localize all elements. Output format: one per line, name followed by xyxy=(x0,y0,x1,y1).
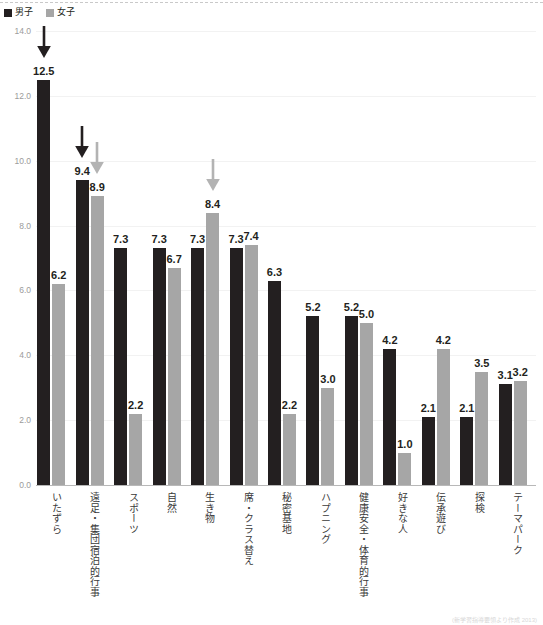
bar-male[interactable] xyxy=(268,281,281,485)
y-axis-tick-label: 12.0 xyxy=(5,92,31,101)
bar-group: 12.56.2 xyxy=(36,31,74,485)
bar-value-label: 6.2 xyxy=(51,270,66,281)
bar-male[interactable] xyxy=(191,248,204,485)
bar-chart: 男子 女子 0.02.04.06.08.010.012.014.0 12.56.… xyxy=(0,0,543,625)
bar-group: 9.48.9 xyxy=(75,31,113,485)
bar-female[interactable] xyxy=(245,245,258,485)
legend-item-male: 男子 xyxy=(4,8,33,17)
bar-male[interactable] xyxy=(460,417,473,485)
x-axis-category-text: いたずら xyxy=(49,492,61,534)
bar-group: 7.36.7 xyxy=(152,31,190,485)
bar-value-label: 5.2 xyxy=(344,302,359,313)
y-axis-tick-label: 10.0 xyxy=(5,156,31,165)
bar-group: 5.25.0 xyxy=(344,31,382,485)
bar-male[interactable] xyxy=(383,349,396,485)
x-axis-category-text: テーマパーク xyxy=(511,492,523,555)
bar-value-label: 2.2 xyxy=(282,400,297,411)
x-axis-category-text: 生き物 xyxy=(203,492,215,524)
x-axis-category-label: 伝承遊び xyxy=(421,492,459,534)
bar-value-label: 6.3 xyxy=(267,267,282,278)
bar-value-label: 8.9 xyxy=(90,182,105,193)
x-axis-category-label: 席・クラス替え xyxy=(229,492,267,566)
legend-label-male: 男子 xyxy=(15,8,33,17)
bar-group: 7.37.4 xyxy=(229,31,267,485)
bar-female[interactable] xyxy=(321,388,334,485)
x-axis-category-label: スポーツ xyxy=(113,492,151,534)
bar-male[interactable] xyxy=(114,248,127,485)
x-axis-category-text: 遠足・集団宿泊的行事 xyxy=(88,492,100,597)
bar-male[interactable] xyxy=(306,316,319,485)
down-arrow-icon xyxy=(36,25,52,63)
bar-male[interactable] xyxy=(230,248,243,485)
bar-group: 7.32.2 xyxy=(113,31,151,485)
y-axis-tick-label: 6.0 xyxy=(5,286,31,295)
bar-value-label: 3.0 xyxy=(320,374,335,385)
bar-value-label: 3.5 xyxy=(474,358,489,369)
down-arrow-icon xyxy=(74,125,90,163)
bar-value-label: 9.4 xyxy=(75,166,90,177)
y-axis-tick-label: 2.0 xyxy=(5,416,31,425)
bar-group: 5.23.0 xyxy=(305,31,343,485)
bar-female[interactable] xyxy=(129,414,142,485)
bar-female[interactable] xyxy=(168,268,181,485)
x-axis-category-text: 伝承遊び xyxy=(434,492,446,534)
bar-male[interactable] xyxy=(37,80,50,485)
bar-value-label: 4.2 xyxy=(436,335,451,346)
bar-group: 6.32.2 xyxy=(267,31,305,485)
x-axis-category-label: 自然 xyxy=(152,492,190,513)
bar-value-label: 5.2 xyxy=(305,302,320,313)
x-axis-category-text: 健康安全・体育的行事 xyxy=(357,492,369,597)
bar-value-label: 5.0 xyxy=(359,309,374,320)
bar-female[interactable] xyxy=(514,381,527,485)
down-arrow-icon xyxy=(205,158,221,196)
y-axis: 0.02.04.06.08.010.012.014.0 xyxy=(0,31,31,485)
bar-female[interactable] xyxy=(437,349,450,485)
gridline xyxy=(36,485,536,486)
bar-female[interactable] xyxy=(475,372,488,486)
bar-value-label: 3.2 xyxy=(513,367,528,378)
down-arrow-icon xyxy=(89,141,105,179)
bar-female[interactable] xyxy=(398,453,411,485)
bar-male[interactable] xyxy=(422,417,435,485)
bar-group: 2.13.5 xyxy=(459,31,497,485)
y-axis-tick-label: 14.0 xyxy=(5,27,31,36)
bar-female[interactable] xyxy=(283,414,296,485)
bar-value-label: 7.3 xyxy=(228,234,243,245)
x-axis-category-text: ハプニング xyxy=(319,492,331,545)
x-axis-category-label: ハプニング xyxy=(305,492,343,545)
bar-value-label: 2.1 xyxy=(459,403,474,414)
x-axis-category-text: 探検 xyxy=(472,492,484,513)
bar-value-label: 6.7 xyxy=(166,254,181,265)
bar-male[interactable] xyxy=(153,248,166,485)
bar-value-label: 7.3 xyxy=(151,234,166,245)
bar-groups: 12.56.29.48.97.32.27.36.77.38.47.37.46.3… xyxy=(36,31,536,485)
x-axis-category-label: 健康安全・体育的行事 xyxy=(344,492,382,597)
bar-male[interactable] xyxy=(76,180,89,485)
bar-value-label: 1.0 xyxy=(397,439,412,450)
source-note: (新学習指導要領より作成 2013) xyxy=(452,617,537,623)
bar-female[interactable] xyxy=(360,323,373,485)
square-marker-icon xyxy=(4,9,12,17)
bar-male[interactable] xyxy=(345,316,358,485)
x-axis-category-label: 探検 xyxy=(459,492,497,513)
bar-value-label: 2.1 xyxy=(421,403,436,414)
bar-value-label: 8.4 xyxy=(205,199,220,210)
x-axis-category-label: テーマパーク xyxy=(498,492,536,555)
y-axis-tick-label: 8.0 xyxy=(5,221,31,230)
x-axis-category-label: 秘密基地 xyxy=(267,492,305,534)
x-axis-category-text: 好きな人 xyxy=(395,492,407,534)
bar-female[interactable] xyxy=(52,284,65,485)
x-axis-category-text: 席・クラス替え xyxy=(242,492,254,566)
bar-value-label: 4.2 xyxy=(382,335,397,346)
square-marker-icon xyxy=(46,9,54,17)
chart-legend: 男子 女子 xyxy=(4,8,75,17)
bar-value-label: 7.3 xyxy=(190,234,205,245)
bar-value-label: 12.5 xyxy=(33,66,54,77)
y-axis-tick-label: 4.0 xyxy=(5,351,31,360)
legend-item-female: 女子 xyxy=(46,8,75,17)
bar-value-label: 2.2 xyxy=(128,400,143,411)
bar-male[interactable] xyxy=(499,384,512,485)
bar-value-label: 7.3 xyxy=(113,234,128,245)
bar-female[interactable] xyxy=(91,196,104,485)
bar-female[interactable] xyxy=(206,213,219,485)
